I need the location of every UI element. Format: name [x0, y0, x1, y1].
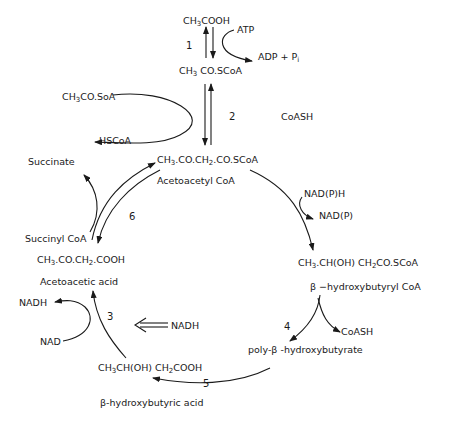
step3-arrow — [93, 291, 126, 358]
nad-step3-label: NAD — [40, 337, 61, 347]
acetoacetyl-coa-name: Acetoacetyl CoA — [157, 176, 235, 186]
step-1-number: 1 — [186, 41, 192, 51]
coash-step4-label: CoASH — [341, 327, 373, 337]
hydroxybutyric-acid-formula: CH3CH(OH) CH2COOH — [98, 363, 202, 373]
nadph-arrow — [300, 197, 313, 219]
nadh-step3-label: NADH — [19, 298, 47, 308]
nadph-label: NAD(P)H — [304, 189, 345, 199]
step-4-number: 4 — [284, 322, 290, 332]
step6-arrow-up — [92, 163, 155, 240]
nadh-inhibitor-label: NADH — [171, 321, 199, 331]
acetoacetyl-coa-formula: CH3.CO.CH2.CO.SCoA — [157, 155, 258, 165]
acetate-label: CH3COOH — [183, 16, 230, 26]
step4-arrow — [290, 295, 320, 341]
step6-arrow-down — [98, 170, 160, 243]
coash-step2-label: CoASH — [281, 112, 313, 122]
pathway-arrows — [0, 0, 451, 425]
succinyl-coa-label: Succinyl CoA — [25, 234, 86, 244]
succinate-arrow — [84, 175, 97, 232]
step-5-number: 5 — [203, 379, 209, 389]
adp-pi-label: ADP + Pi — [258, 52, 299, 62]
hydroxybutyric-acid-name: β-hydroxybutyric acid — [100, 398, 204, 408]
reduction-arrow — [250, 170, 313, 250]
step-6-number: 6 — [129, 212, 135, 222]
step-2-number: 2 — [229, 112, 235, 122]
hydroxybutyryl-coa-formula: CH3.CH(OH) CH2CO.SCoA — [298, 258, 418, 268]
atp-label: ATP — [237, 25, 254, 35]
acetyl-coa-label: CH3 CO.SCoA — [179, 66, 242, 76]
nad-arrow — [55, 301, 90, 341]
succinate-label: Succinate — [28, 157, 75, 167]
acetoacetic-acid-formula: CH3.CO.CH2.COOH — [37, 255, 125, 265]
hscoa-label: HSCoA — [99, 136, 131, 146]
nadh-inhibition-arrow — [135, 318, 146, 332]
nadp-label: NAD(P) — [319, 211, 353, 221]
acetoacetic-acid-name: Acetoacetic acid — [40, 277, 118, 287]
hydroxybutyryl-coa-name: β −hydroxybutyryl CoA — [310, 282, 421, 292]
step-3-number: 3 — [107, 312, 113, 322]
acetyl-coa-side-label: CH3CO.SoA — [62, 92, 115, 102]
phb-label: poly-β -hydroxybutyrate — [248, 345, 363, 355]
coash4-arrow — [318, 298, 340, 332]
